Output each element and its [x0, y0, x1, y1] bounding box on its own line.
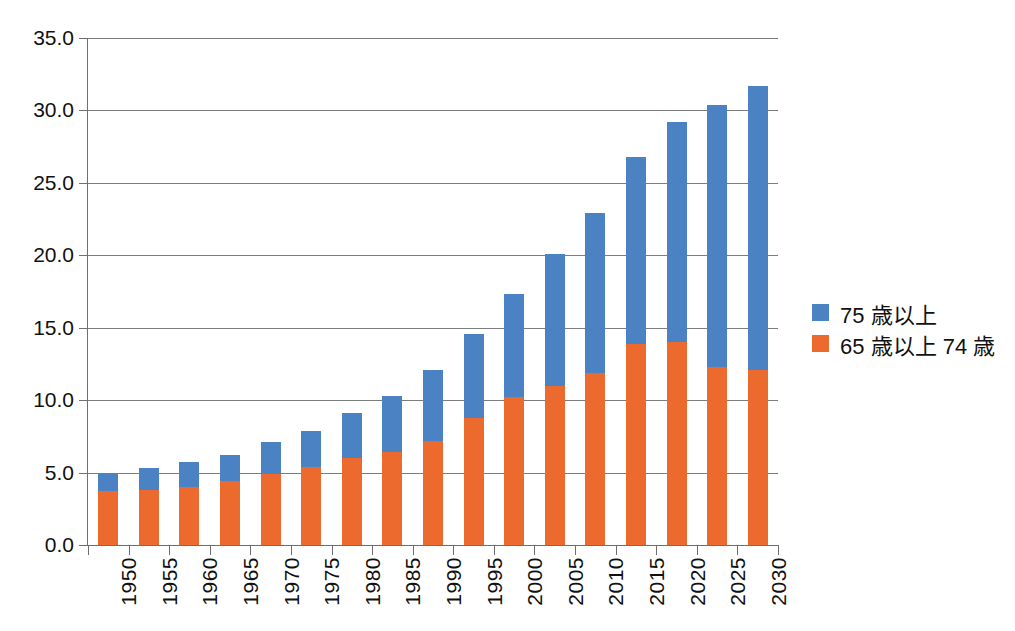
x-tick-label-2030: 2030 — [767, 557, 791, 606]
legend-item: 65 歳以上 74 歳 — [812, 328, 1012, 359]
bar-segment-75-and-over — [342, 413, 362, 458]
bar-segment-65-to-74 — [423, 441, 443, 545]
legend-label: 65 歳以上 74 歳 — [840, 328, 995, 360]
bar-stack — [179, 38, 199, 545]
x-tick-label-2010: 2010 — [604, 557, 628, 606]
bar-stack — [585, 38, 605, 545]
bar-stack — [504, 38, 524, 545]
x-tick-mark — [250, 545, 251, 555]
y-tick-mark — [79, 328, 88, 329]
bar-segment-75-and-over — [707, 105, 727, 367]
bar-segment-75-and-over — [261, 442, 281, 474]
x-tick-label-1970: 1970 — [280, 557, 304, 606]
x-tick-mark — [534, 545, 535, 555]
x-tick-mark — [291, 545, 292, 555]
bar-segment-65-to-74 — [342, 458, 362, 545]
bar-segment-75-and-over — [139, 468, 159, 490]
x-tick-mark — [453, 545, 454, 555]
x-tick-label-1990: 1990 — [442, 557, 466, 606]
x-tick-mark — [494, 545, 495, 555]
x-axis-tick-labels: 1950195519601965197019751980198519901995… — [88, 557, 778, 631]
y-tick-label: 35.0 — [33, 26, 74, 50]
x-tick-mark — [778, 545, 779, 555]
bar-segment-65-to-74 — [626, 344, 646, 545]
x-tick-mark — [697, 545, 698, 555]
bar-segment-75-and-over — [545, 254, 565, 386]
x-tick-label-1975: 1975 — [320, 557, 344, 606]
bar-segment-65-to-74 — [301, 467, 321, 545]
y-tick-label: 10.0 — [33, 388, 74, 412]
y-tick-label: 20.0 — [33, 243, 74, 267]
x-tick-label-1965: 1965 — [239, 557, 263, 606]
y-tick-mark — [79, 545, 88, 546]
bar-segment-75-and-over — [179, 462, 199, 487]
y-tick-mark — [79, 255, 88, 256]
bar-segment-65-to-74 — [545, 386, 565, 545]
chart-legend: 75 歳以上65 歳以上 74 歳 — [812, 297, 1012, 359]
bar-segment-75-and-over — [504, 294, 524, 397]
x-tick-mark — [737, 545, 738, 555]
bar-segment-65-to-74 — [585, 373, 605, 545]
x-tick-mark — [210, 545, 211, 555]
bar-segment-75-and-over — [667, 122, 687, 342]
bar-segment-75-and-over — [382, 396, 402, 452]
legend-swatch-65-to-74 — [812, 335, 829, 352]
bar-segment-75-and-over — [748, 86, 768, 370]
legend-label: 75 歳以上 — [840, 297, 937, 329]
bar-segment-65-to-74 — [748, 370, 768, 545]
x-tick-label-1985: 1985 — [401, 557, 425, 606]
x-tick-mark — [129, 545, 130, 555]
x-tick-mark — [88, 545, 89, 555]
bar-segment-75-and-over — [464, 334, 484, 418]
bar-stack — [464, 38, 484, 545]
y-tick-mark — [79, 400, 88, 401]
bar-segment-65-to-74 — [667, 342, 687, 545]
stacked-bar-chart-figure: 0.05.010.015.020.025.030.035.0 195019551… — [0, 0, 1015, 631]
bar-segment-65-to-74 — [220, 481, 240, 545]
bar-segment-75-and-over — [626, 157, 646, 344]
bar-segment-65-to-74 — [707, 367, 727, 545]
x-tick-label-1980: 1980 — [361, 557, 385, 606]
x-tick-label-2025: 2025 — [726, 557, 750, 606]
y-tick-mark — [79, 473, 88, 474]
bar-stack — [707, 38, 727, 545]
bar-segment-75-and-over — [585, 213, 605, 372]
y-tick-mark — [79, 183, 88, 184]
x-tick-mark — [332, 545, 333, 555]
legend-swatch-75-and-over — [812, 304, 829, 321]
bar-stack — [423, 38, 443, 545]
bar-stack — [667, 38, 687, 545]
bar-stack — [382, 38, 402, 545]
y-tick-mark — [79, 110, 88, 111]
y-tick-label: 25.0 — [33, 171, 74, 195]
bar-segment-65-to-74 — [98, 491, 118, 545]
bar-stack — [301, 38, 321, 545]
x-axis-tick-marks — [88, 545, 778, 555]
x-tick-label-1955: 1955 — [158, 557, 182, 606]
bar-stack — [220, 38, 240, 545]
bar-segment-75-and-over — [98, 473, 118, 492]
x-tick-label-1960: 1960 — [198, 557, 222, 606]
x-tick-mark — [656, 545, 657, 555]
bar-stack — [139, 38, 159, 545]
legend-item: 75 歳以上 — [812, 297, 1012, 328]
bar-segment-75-and-over — [301, 431, 321, 467]
plot-area: 0.05.010.015.020.025.030.035.0 195019551… — [88, 38, 778, 545]
bar-stack — [748, 38, 768, 545]
bar-stack — [98, 38, 118, 545]
bar-segment-65-to-74 — [261, 474, 281, 545]
bar-stack — [545, 38, 565, 545]
x-tick-label-2020: 2020 — [686, 557, 710, 606]
bar-stack — [626, 38, 646, 545]
x-tick-label-2000: 2000 — [523, 557, 547, 606]
x-tick-mark — [413, 545, 414, 555]
x-tick-mark — [575, 545, 576, 555]
y-tick-label: 15.0 — [33, 316, 74, 340]
bar-segment-65-to-74 — [139, 490, 159, 545]
x-tick-mark — [372, 545, 373, 555]
x-tick-label-2005: 2005 — [564, 557, 588, 606]
bar-segment-65-to-74 — [464, 418, 484, 545]
bar-stack — [342, 38, 362, 545]
bar-segment-65-to-74 — [179, 487, 199, 545]
bar-segment-65-to-74 — [382, 452, 402, 545]
